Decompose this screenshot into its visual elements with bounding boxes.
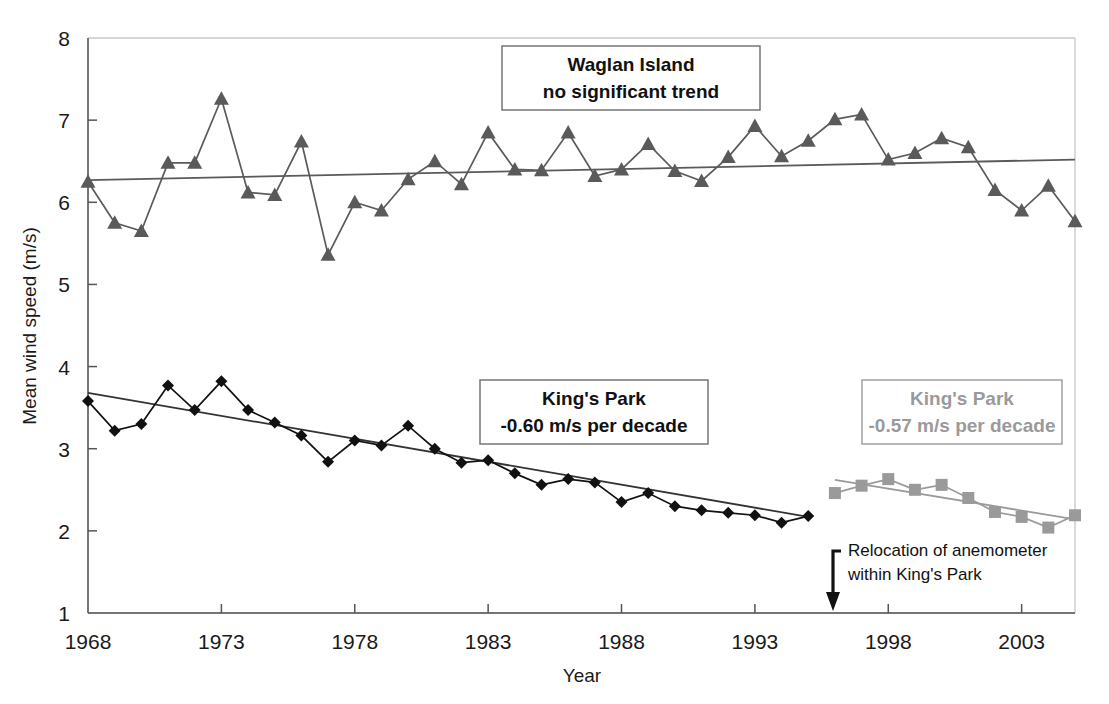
annotation-kings-park-relocated-box: King's Park -0.57 m/s per decade (862, 380, 1062, 444)
x-axis-ticks: 19681973197819831988199319982003 (65, 604, 1045, 653)
y-tick-label: 4 (58, 356, 70, 379)
data-point-marker (1069, 509, 1081, 521)
data-point-marker (561, 125, 576, 138)
waglan-box-line1: Waglan Island (567, 54, 694, 75)
data-point-marker (961, 140, 976, 154)
data-point-marker (294, 134, 309, 148)
data-point-marker (1016, 511, 1028, 523)
data-point-marker (347, 195, 362, 209)
relocation-note-line1: Relocation of anemometer (848, 541, 1048, 560)
data-point-marker (907, 146, 922, 160)
x-tick-label: 1988 (598, 630, 645, 653)
data-point-marker (989, 506, 1001, 518)
data-point-marker (1042, 522, 1054, 534)
y-tick-label: 3 (58, 438, 70, 461)
y-tick-label: 5 (58, 273, 70, 296)
data-point-marker (987, 182, 1002, 196)
data-point-marker (241, 185, 256, 199)
data-point-marker (427, 154, 442, 168)
x-tick-label: 1993 (732, 630, 779, 653)
data-point-marker (135, 418, 147, 430)
trend-line (835, 480, 1075, 519)
y-axis-title: Mean wind speed (m/s) (19, 227, 40, 424)
relocation-note-line2: within King's Park (847, 565, 982, 584)
chart-canvas: 12345678 1968197319781983198819931998200… (0, 0, 1109, 704)
data-point-marker (936, 479, 948, 491)
data-point-marker (882, 473, 894, 485)
data-point-marker (509, 467, 521, 479)
data-point-marker (909, 484, 921, 496)
annotation-relocation-note: Relocation of anemometer within King's P… (826, 541, 1048, 611)
kings-park-box-line2: -0.60 m/s per decade (501, 415, 688, 436)
data-point-marker (696, 504, 708, 516)
kings-park-relocated-box-line2: -0.57 m/s per decade (869, 415, 1056, 436)
data-point-marker (214, 91, 229, 105)
data-point-marker (854, 107, 869, 121)
annotation-kings-park-box: King's Park -0.60 m/s per decade (480, 380, 708, 444)
x-tick-label: 2003 (998, 630, 1045, 653)
data-point-marker (669, 500, 681, 512)
waglan-box-line2: no significant trend (543, 81, 719, 102)
data-markers (81, 91, 1083, 533)
data-point-marker (535, 479, 547, 491)
x-tick-label: 1978 (331, 630, 378, 653)
data-point-marker (482, 454, 494, 466)
data-point-marker (801, 133, 816, 147)
plot-frame (88, 38, 1075, 613)
data-point-marker (829, 487, 841, 499)
data-point-marker (375, 439, 387, 451)
trend-lines (88, 160, 1075, 520)
data-point-marker (856, 480, 868, 492)
data-point-marker (81, 174, 96, 188)
x-tick-label: 1973 (198, 630, 245, 653)
y-tick-label: 2 (58, 520, 70, 543)
y-tick-label: 8 (58, 27, 70, 50)
data-point-marker (507, 162, 522, 176)
data-point-marker (1068, 214, 1083, 228)
data-point-marker (616, 496, 628, 508)
wind-speed-chart: 12345678 1968197319781983198819931998200… (0, 0, 1109, 704)
data-point-marker (722, 507, 734, 519)
y-axis-ticks: 12345678 (58, 27, 97, 625)
data-point-marker (802, 510, 814, 522)
x-tick-label: 1998 (865, 630, 912, 653)
kings-park-box-line1: King's Park (542, 388, 646, 409)
y-tick-label: 7 (58, 109, 70, 132)
x-tick-label: 1968 (65, 630, 112, 653)
down-arrow-icon (826, 592, 840, 611)
data-point-marker (481, 125, 496, 138)
trend-line (88, 160, 1075, 181)
data-point-marker (589, 476, 601, 488)
kings-park-relocated-box-line1: King's Park (910, 388, 1014, 409)
x-axis-title: Year (563, 665, 602, 686)
data-point-marker (934, 131, 949, 145)
annotation-waglan-box: Waglan Island no significant trend (502, 46, 760, 110)
data-point-marker (321, 247, 336, 261)
data-point-marker (107, 215, 122, 229)
y-tick-label: 1 (58, 602, 70, 625)
data-point-marker (962, 492, 974, 504)
data-point-marker (641, 136, 656, 150)
y-tick-label: 6 (58, 191, 70, 214)
data-point-marker (776, 517, 788, 529)
data-point-marker (747, 118, 762, 131)
data-point-marker (1041, 178, 1056, 192)
x-tick-label: 1983 (465, 630, 512, 653)
data-point-marker (749, 509, 761, 521)
